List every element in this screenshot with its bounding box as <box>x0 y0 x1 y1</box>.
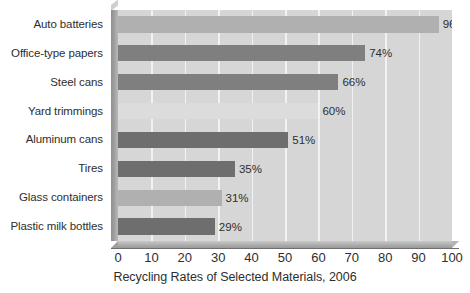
plot-side-wall <box>111 10 118 241</box>
bar <box>118 103 318 119</box>
category-label: Auto batteries <box>0 10 110 39</box>
category-label: Office-type papers <box>0 39 110 68</box>
x-tick-label: 50 <box>278 250 292 265</box>
category-label: Plastic milk bottles <box>0 211 110 240</box>
bar-value-label: 74% <box>365 47 392 59</box>
bar <box>118 132 288 148</box>
bar-rows: 96%74%66%60%51%35%31%29% <box>118 10 452 241</box>
x-axis-tick-labels: 0102030405060708090100 <box>0 250 470 270</box>
bar-row: 74% <box>118 39 452 68</box>
category-label: Yard trimmings <box>0 96 110 125</box>
bar-value-label: 31% <box>222 192 249 204</box>
bar-row: 66% <box>118 68 452 97</box>
bar-value-label: 51% <box>288 134 315 146</box>
bar <box>118 190 222 206</box>
bar <box>118 218 215 234</box>
x-tick-label: 80 <box>378 250 392 265</box>
bar-row: 60% <box>118 97 452 126</box>
bar-value-label: 96% <box>439 18 452 30</box>
plot-area: 96%74%66%60%51%35%31%29% <box>118 10 452 241</box>
x-tick-label: 10 <box>144 250 158 265</box>
bar <box>118 16 439 32</box>
bar-row: 96% <box>118 10 452 39</box>
category-label-text: Glass containers <box>19 191 103 203</box>
category-label-text: Steel cans <box>50 76 103 88</box>
bar <box>118 74 338 90</box>
bar-row: 29% <box>118 212 452 241</box>
category-label: Steel cans <box>0 68 110 97</box>
bar-row: 35% <box>118 154 452 183</box>
category-label-text: Aluminum cans <box>26 133 103 145</box>
category-label-text: Office-type papers <box>11 47 103 59</box>
category-label-text: Yard trimmings <box>28 105 103 117</box>
category-label-text: Auto batteries <box>33 18 103 30</box>
x-tick-label: 0 <box>114 250 121 265</box>
category-axis-labels: Auto batteries Office-type papers Steel … <box>0 10 110 240</box>
bar-row: 31% <box>118 183 452 212</box>
bar <box>118 161 235 177</box>
x-tick-label: 90 <box>411 250 425 265</box>
chart-title: Recycling Rates of Selected Materials, 2… <box>0 270 470 284</box>
category-label: Glass containers <box>0 183 110 212</box>
bar-value-label: 35% <box>235 163 262 175</box>
category-label-text: Tires <box>78 162 103 174</box>
bar-value-label: 29% <box>215 221 242 233</box>
recycling-rates-bar-chart: Auto batteries Office-type papers Steel … <box>0 0 470 293</box>
x-tick-label: 40 <box>244 250 258 265</box>
bar-value-label: 66% <box>338 76 365 88</box>
category-label: Aluminum cans <box>0 125 110 154</box>
category-label-text: Plastic milk bottles <box>10 220 103 232</box>
bar <box>118 45 365 61</box>
x-tick-label: 70 <box>345 250 359 265</box>
x-tick-label: 30 <box>211 250 225 265</box>
x-tick-label: 20 <box>178 250 192 265</box>
category-label: Tires <box>0 154 110 183</box>
x-axis-line <box>111 248 459 250</box>
x-tick-label: 60 <box>311 250 325 265</box>
bar-value-label: 60% <box>318 105 345 117</box>
x-tick-label: 100 <box>441 250 463 265</box>
bar-row: 51% <box>118 126 452 155</box>
